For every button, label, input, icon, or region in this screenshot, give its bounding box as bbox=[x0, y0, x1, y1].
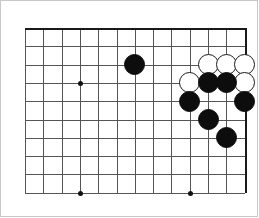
grid-line-vertical bbox=[171, 28, 172, 193]
grid-line-vertical bbox=[25, 28, 26, 193]
grid-line-horizontal bbox=[25, 46, 245, 47]
grid-line-horizontal bbox=[25, 156, 245, 157]
go-board[interactable] bbox=[25, 28, 245, 193]
grid-line-vertical bbox=[135, 28, 136, 193]
black-stone[interactable] bbox=[234, 91, 255, 112]
hoshi-lower-right bbox=[188, 191, 193, 196]
go-diagram-screenshot bbox=[0, 0, 259, 218]
grid-line-vertical bbox=[226, 28, 227, 193]
grid-line-horizontal bbox=[25, 174, 245, 175]
hoshi-upper-left bbox=[78, 81, 83, 86]
black-stone[interactable] bbox=[216, 127, 237, 148]
black-stone[interactable] bbox=[124, 54, 145, 75]
board-top-border bbox=[25, 28, 245, 30]
grid-line-vertical bbox=[98, 28, 99, 193]
grid-line-vertical bbox=[80, 28, 81, 193]
black-stone[interactable] bbox=[198, 109, 219, 130]
black-stone[interactable] bbox=[179, 91, 200, 112]
grid-line-vertical bbox=[62, 28, 63, 193]
grid-line-horizontal bbox=[25, 138, 245, 139]
grid-line-vertical bbox=[117, 28, 118, 193]
black-stone[interactable] bbox=[216, 72, 237, 93]
grid-line-horizontal bbox=[25, 101, 245, 102]
grid-line-vertical bbox=[153, 28, 154, 193]
hoshi-lower-left bbox=[78, 191, 83, 196]
grid-line-horizontal bbox=[25, 193, 245, 194]
grid-line-vertical bbox=[43, 28, 44, 193]
board-plate bbox=[7, 7, 253, 204]
figure-frame bbox=[0, 0, 258, 217]
